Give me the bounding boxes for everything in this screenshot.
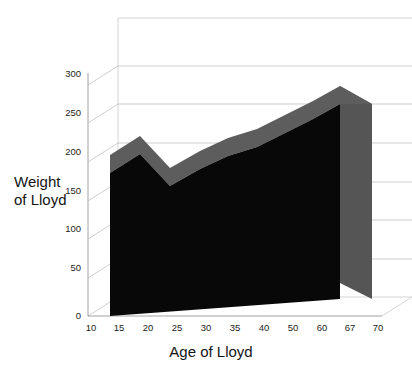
y-tick-label-100: 100	[65, 223, 81, 234]
gridline-depth-300	[88, 66, 118, 85]
series-weight-of-lloyd	[110, 86, 372, 316]
area-chart-3d: 300 250 200 150 100 50 0 10 15 20 25 30 …	[0, 0, 412, 379]
x-tick-label-20: 20	[143, 322, 154, 333]
y-tick-label-0: 0	[76, 310, 81, 321]
x-tick-label-35: 35	[230, 322, 241, 333]
x-axis-title: Age of Lloyd	[169, 343, 252, 360]
x-tick-label-30: 30	[201, 322, 212, 333]
x-tick-label-40: 40	[259, 322, 270, 333]
y-tick-label-150: 150	[65, 185, 81, 196]
x-tick-label-70: 70	[373, 322, 384, 333]
x-tick-label-10: 10	[86, 322, 97, 333]
y-axis-tick-labels: 300 250 200 150 100 50 0	[65, 68, 81, 321]
x-tick-label-25: 25	[172, 322, 183, 333]
floor-depth-right	[382, 297, 412, 316]
y-tick-label-200: 200	[65, 146, 81, 157]
chart-container: 300 250 200 150 100 50 0 10 15 20 25 30 …	[0, 0, 412, 379]
y-tick-label-300: 300	[65, 68, 81, 79]
area-side-face	[340, 86, 372, 299]
x-axis-tick-labels: 10 15 20 25 30 35 40 50 60 67 70	[86, 322, 384, 333]
x-tick-label-60: 60	[317, 322, 328, 333]
y-tick-label-250: 250	[65, 107, 81, 118]
x-tick-label-67: 67	[345, 322, 356, 333]
x-tick-label-50: 50	[288, 322, 299, 333]
x-tick-label-15: 15	[114, 322, 125, 333]
area-front-face	[110, 104, 340, 316]
gridline-depth-250	[88, 104, 118, 123]
y-axis-title-line2: of Lloyd	[14, 191, 67, 208]
y-axis-title-line1: Weight	[14, 173, 61, 190]
y-tick-label-50: 50	[70, 262, 81, 273]
